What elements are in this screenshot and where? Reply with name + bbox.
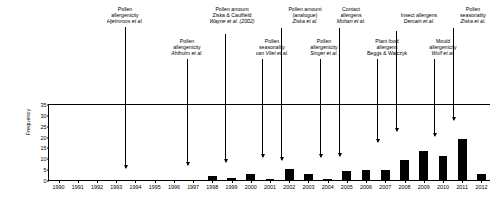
x-axis-tick-label: 2006 (360, 184, 372, 190)
bar (362, 170, 371, 180)
x-axis-tick-label: 2010 (437, 184, 449, 190)
annotation-line: Hjelmroos et al. (95, 18, 155, 24)
x-axis-tick-label: 2011 (456, 184, 468, 190)
bar (400, 160, 409, 180)
x-axis-tick-label: 2000 (245, 184, 257, 190)
x-axis-tick-label: 2002 (283, 184, 295, 190)
x-axis-tick-label: 2007 (379, 184, 391, 190)
plot-area: 05101520253035 1990199119921993199419951… (48, 104, 490, 180)
x-axis-tick-label: 1991 (72, 184, 84, 190)
x-axis-tick-label: 1998 (206, 184, 218, 190)
x-axis-tick-label: 1995 (149, 184, 161, 190)
x-axis-tick-label: 1999 (226, 184, 238, 190)
bar (458, 139, 467, 180)
x-axis-tick-label: 1994 (129, 184, 141, 190)
bar (285, 169, 294, 180)
y-axis-label: Frequency (25, 92, 31, 152)
x-axis-tick-label: 1996 (168, 184, 180, 190)
x-axis-tick-label: 2005 (341, 184, 353, 190)
annotation-ziska-caulfield-wayne: Pollen amount Ziska & Caulfield Wayne et… (196, 6, 268, 24)
frequency-bar-chart: Pollen allergenicity Hjelmroos et al. Po… (0, 0, 502, 206)
annotation-line: Beggs & Walczyk (354, 50, 420, 56)
annotation-singer: Pollen allergenicity Singer et al. (294, 38, 354, 56)
x-axis-tick-label: 2009 (418, 184, 430, 190)
bar (342, 171, 351, 180)
annotation-line: Demain et al. (388, 18, 450, 24)
annotation-mohan: Contact allergens Mohan et al. (322, 6, 380, 24)
x-axis-tick-label: 2008 (399, 184, 411, 190)
annotation-ziska-seasonality: Pollen seasonality Ziska et al. (446, 6, 500, 24)
annotation-wolf: Mould allergenicity Wolf et al. (415, 38, 471, 56)
x-axis-tick-label: 1993 (110, 184, 122, 190)
bar (419, 151, 428, 180)
x-axis-tick-label: 2004 (322, 184, 334, 190)
annotation-line: Mohan et al. (322, 18, 380, 24)
annotation-beggs-walczyk: Plant food allergens Beggs & Walczyk (354, 38, 420, 56)
x-axis-tick-label: 2001 (264, 184, 276, 190)
x-axis-tick-label: 2003 (302, 184, 314, 190)
annotation-line: Ahlholm et al. (158, 50, 216, 56)
x-axis-tick-label: 2012 (475, 184, 487, 190)
bar (439, 156, 448, 180)
annotation-line: Ziska et al. (446, 18, 500, 24)
annotation-line: Wayne et al. (2002) (196, 18, 268, 24)
x-axis-tick-label: 1990 (53, 184, 65, 190)
annotation-ahlholm: Pollen allergenicity Ahlholm et al. (158, 38, 216, 56)
bar (381, 170, 390, 180)
x-axis-line (48, 180, 490, 181)
annotation-hjelmroos: Pollen allergenicity Hjelmroos et al. (95, 6, 155, 24)
annotation-demain: Insect allergens Demain et al. (388, 12, 450, 24)
bar-series (49, 105, 490, 180)
annotation-line: Singer et al. (294, 50, 354, 56)
annotation-line: Wolf et al. (415, 50, 471, 56)
x-axis-tick-label: 1992 (91, 184, 103, 190)
x-axis-tick-label: 1997 (187, 184, 199, 190)
